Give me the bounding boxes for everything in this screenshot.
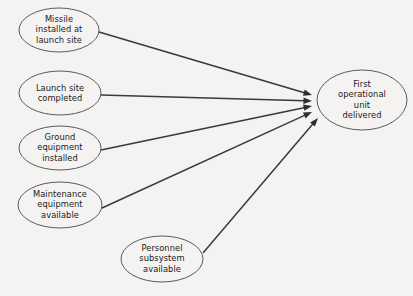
edge-missile-to-unit-arrowhead: [303, 90, 312, 96]
edges-group: [99, 32, 318, 253]
node-personnel-subsystem-available[interactable]: [121, 236, 203, 282]
edge-launch-site-to-unit: [101, 95, 305, 101]
edge-missile-to-unit: [99, 32, 305, 93]
node-missile-installed[interactable]: [19, 8, 99, 52]
node-ground-equipment-installed[interactable]: [19, 126, 101, 170]
edge-launch-site-to-unit-arrowhead: [303, 98, 312, 104]
diagram-svg: [0, 0, 413, 296]
edge-ground-equipment-to-unit-arrowhead: [303, 105, 312, 111]
node-first-operational-unit-delivered[interactable]: [317, 70, 407, 130]
edge-personnel-to-unit: [203, 123, 313, 253]
diagram-canvas: Missile installed at launch siteLaunch s…: [0, 0, 413, 296]
node-maintenance-equipment-available[interactable]: [18, 182, 102, 228]
node-launch-site-completed[interactable]: [19, 71, 101, 115]
edge-maintenance-to-unit-arrowhead: [303, 112, 312, 118]
